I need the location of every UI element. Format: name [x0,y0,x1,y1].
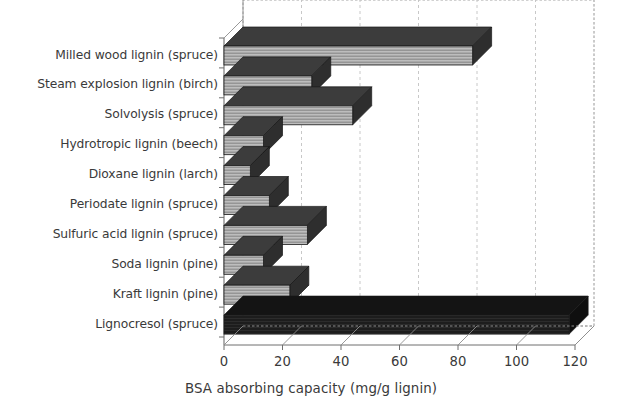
x-tick-label-6: 120 [550,354,600,369]
x-tick-label-2: 40 [316,354,366,369]
bsa-absorbing-capacity-chart: Milled wood lignin (spruce)Steam explosi… [0,0,622,419]
x-tick-label-0: 0 [199,354,249,369]
x-tick-label-5: 100 [492,354,542,369]
x-tick-label-4: 80 [433,354,483,369]
x-tick-label-1: 20 [258,354,308,369]
x-axis-title: BSA absorbing capacity (mg/g lignin) [0,381,622,396]
x-tick-label-3: 60 [375,354,425,369]
